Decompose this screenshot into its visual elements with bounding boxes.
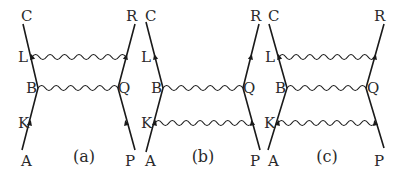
diagram-caption: (b) xyxy=(192,147,215,166)
wavy-exchange-line xyxy=(287,86,366,91)
vertex-label-a: A xyxy=(267,152,279,170)
vertex-label-c: C xyxy=(268,7,279,25)
diagram-a: CLBKARQP(a) xyxy=(18,7,138,170)
vertex-label-p: P xyxy=(374,152,384,170)
vertex-label-b: B xyxy=(26,79,37,97)
vertex-label-c: C xyxy=(21,7,32,25)
vertex-label-b: B xyxy=(275,79,286,97)
wavy-exchange-line xyxy=(38,86,118,91)
vertex-label-k: K xyxy=(18,114,30,132)
wavy-exchange-line xyxy=(32,55,126,60)
vertex-label-r: R xyxy=(374,7,386,25)
vertex-label-r: R xyxy=(126,7,138,25)
wavy-exchange-line xyxy=(155,121,252,126)
feynman-diagram-figure: CLBKARQP(a)CLBKARQP(b)CLBKARQP(c) xyxy=(0,0,400,180)
diagram-c: CLBKARQP(c) xyxy=(264,7,386,170)
vertex-label-q: Q xyxy=(243,79,255,97)
vertex-label-a: A xyxy=(20,152,32,170)
vertex-label-l: L xyxy=(141,48,151,66)
wavy-exchange-line xyxy=(278,121,375,126)
vertex-label-l: L xyxy=(265,48,275,66)
vertex-label-q: Q xyxy=(367,79,379,97)
diagram-caption: (a) xyxy=(73,147,95,166)
wavy-exchange-line xyxy=(163,86,243,91)
vertex-label-k: K xyxy=(264,114,276,132)
vertex-label-q: Q xyxy=(118,79,130,97)
wavy-exchange-line xyxy=(279,55,375,60)
vertex-label-p: P xyxy=(125,152,135,170)
vertex-label-c: C xyxy=(145,7,156,25)
vertex-label-r: R xyxy=(250,7,262,25)
vertex-label-p: P xyxy=(250,152,260,170)
vertex-label-a: A xyxy=(144,152,156,170)
diagram-canvas: CLBKARQP(a)CLBKARQP(b)CLBKARQP(c) xyxy=(0,0,400,180)
vertex-label-l: L xyxy=(18,48,28,66)
diagram-b: CLBKARQP(b) xyxy=(141,7,262,170)
vertex-label-k: K xyxy=(141,114,153,132)
diagram-caption: (c) xyxy=(316,147,337,166)
vertex-label-b: B xyxy=(151,79,162,97)
